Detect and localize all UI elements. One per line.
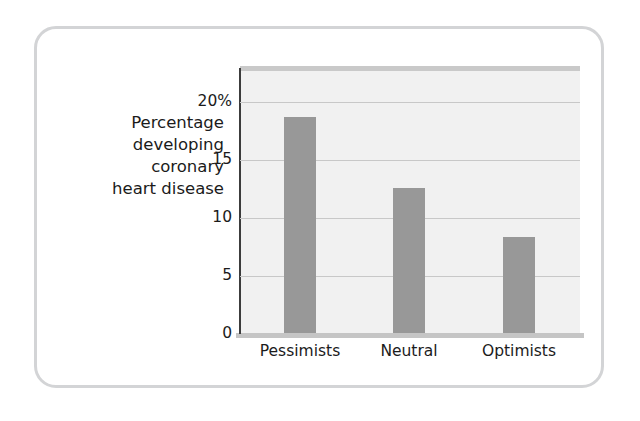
y-tick-label-10: 10	[186, 210, 232, 226]
y-axis-title-line-1: Percentage	[56, 112, 224, 134]
y-tick-label-0: 0	[186, 326, 232, 342]
x-tick-label-pessimists: Pessimists	[260, 344, 340, 360]
bar-chart: 20% 15 10 5 0 Pessimists Neutral Optimis…	[0, 0, 640, 421]
gridline-20	[240, 102, 580, 103]
y-tick-label-20: 20%	[186, 94, 232, 110]
x-tick-label-optimists: Optimists	[482, 344, 556, 360]
bar-neutral	[393, 188, 425, 333]
x-tick-label-neutral: Neutral	[380, 344, 437, 360]
y-axis-title-line-3: coronary	[56, 156, 224, 178]
y-axis-title-line-4: heart disease	[56, 178, 224, 200]
y-tick-label-5: 5	[186, 268, 232, 284]
bar-optimists	[503, 237, 535, 333]
bar-pessimists	[284, 117, 316, 333]
plot-baseline	[236, 333, 584, 338]
y-axis-line	[239, 68, 241, 334]
y-axis-title-line-2: developing	[56, 134, 224, 156]
y-axis-title: Percentage developing coronary heart dis…	[56, 112, 224, 200]
y-axis-tick-labels: 20% 15 10 5 0	[180, 0, 232, 421]
plot-top-border	[240, 66, 580, 71]
